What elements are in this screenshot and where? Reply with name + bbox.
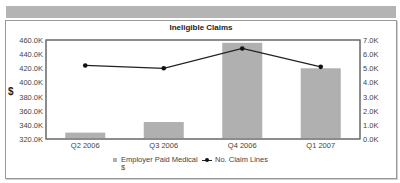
- line-marker: [161, 66, 166, 71]
- right-axis-tick: 5.0K: [363, 64, 378, 73]
- line-marker: [240, 46, 245, 51]
- bar-swatch-icon: [113, 158, 117, 162]
- x-axis-tick: Q3 2006: [149, 141, 178, 150]
- legend-bar-label-unit: $: [113, 163, 125, 172]
- right-axis-tick: 4.0K: [363, 78, 378, 87]
- line-marker-icon: [202, 158, 212, 163]
- left-axis-tick: 360.0K: [19, 107, 43, 116]
- legend-line-label: No. Claim Lines: [215, 155, 268, 164]
- right-axis-tick: 0.0K: [363, 135, 378, 144]
- bar: [222, 43, 262, 139]
- bar: [301, 68, 341, 139]
- right-axis-tick: 6.0K: [363, 50, 378, 59]
- claim-lines-series: [85, 48, 321, 68]
- legend-bar-label: Employer Paid Medical: [121, 155, 198, 164]
- x-axis-tick: Q4 2006: [228, 141, 257, 150]
- line-marker: [318, 65, 323, 70]
- right-axis-tick: 1.0K: [363, 121, 378, 130]
- legend-item-bar: Employer Paid Medical $: [113, 156, 198, 172]
- line-marker: [83, 63, 88, 68]
- bar: [65, 133, 105, 139]
- legend-item-line: No. Claim Lines: [202, 156, 268, 164]
- right-axis-tick: 3.0K: [363, 93, 378, 102]
- left-axis-tick: 320.0K: [19, 135, 43, 144]
- combo-chart: 460.0K440.0K420.0K400.0K380.0K360.0K340.…: [0, 0, 400, 183]
- x-axis-tick: Q1 2007: [306, 141, 335, 150]
- left-axis-tick: 400.0K: [19, 78, 43, 87]
- bar: [144, 122, 184, 139]
- y-axis-label: $: [8, 86, 14, 97]
- left-axis-tick: 440.0K: [19, 50, 43, 59]
- right-axis-tick: 2.0K: [363, 107, 378, 116]
- left-axis-tick: 340.0K: [19, 121, 43, 130]
- left-axis-tick: 380.0K: [19, 93, 43, 102]
- left-axis-tick: 420.0K: [19, 64, 43, 73]
- left-axis-tick: 460.0K: [19, 36, 43, 45]
- right-axis-tick: 7.0K: [363, 36, 378, 45]
- x-axis-tick: Q2 2006: [71, 141, 100, 150]
